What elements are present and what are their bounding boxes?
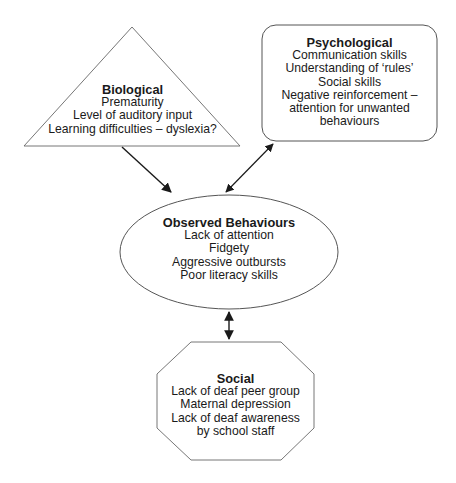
biological-item: Learning difficulties – dyslexia?: [40, 123, 225, 136]
biological-item: Level of auditory input: [40, 109, 225, 122]
psychological-item: Understanding of ‘rules’: [262, 62, 437, 75]
social-item: Maternal depression: [157, 398, 314, 411]
psychological-item: behaviours: [262, 115, 437, 128]
psychological-node: Psychological Communication skills Under…: [262, 36, 437, 128]
arrow-psychological-observed-bidirectional: [226, 144, 273, 192]
arrow-biological-to-observed: [122, 147, 171, 192]
observed-behaviours-node: Observed Behaviours Lack of attention Fi…: [139, 216, 319, 282]
observed-behaviours-item: Aggressive outbursts: [139, 256, 319, 269]
social-node: Social Lack of deaf peer group Maternal …: [157, 372, 314, 438]
social-item: by school staff: [157, 425, 314, 438]
psychological-item: Social skills: [262, 76, 437, 89]
biological-node: Biological Prematurity Level of auditory…: [40, 83, 225, 136]
social-item: Lack of deaf awareness: [157, 412, 314, 425]
observed-behaviours-item: Fidgety: [139, 242, 319, 255]
observed-behaviours-item: Poor literacy skills: [139, 269, 319, 282]
